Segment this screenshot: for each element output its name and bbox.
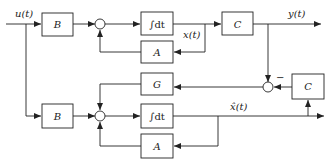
observer-a-label: A (152, 141, 160, 152)
state-label: x(t) (183, 29, 201, 40)
observer-b-label: B (53, 111, 61, 122)
plant-c-block: C (222, 12, 253, 35)
plant-summing-junction (95, 19, 105, 29)
output-label: y(t) (287, 8, 306, 19)
observer-integrator-label: ∫dt (149, 111, 165, 122)
observer-summing-junction (95, 111, 105, 121)
plant-a-label: A (152, 47, 160, 58)
observer-b-block: B (42, 104, 73, 128)
plant-integrator-block: ∫dt (141, 12, 173, 35)
observer-integrator-block: ∫dt (141, 104, 173, 128)
observer-g-block: G (141, 73, 173, 95)
minus-sign: − (276, 72, 284, 83)
input-label: u(t) (15, 8, 33, 19)
observer-a-block: A (141, 134, 173, 158)
observer-block-diagram: u(t) B ∫dt x(t) A C y(t) − C G (0, 0, 334, 166)
plant-integrator-label: ∫dt (149, 19, 165, 30)
plant-b-block: B (42, 13, 73, 36)
observer-c-label: C (304, 81, 312, 92)
plant-b-label: B (53, 19, 61, 30)
observer-c-block: C (292, 74, 324, 99)
error-summing-junction (263, 82, 273, 92)
plant-c-label: C (234, 19, 242, 30)
plant-a-block: A (141, 41, 173, 63)
observer-g-label: G (153, 79, 161, 90)
estimate-label: x̂(t) (230, 101, 248, 112)
input-signal-line (6, 24, 41, 116)
